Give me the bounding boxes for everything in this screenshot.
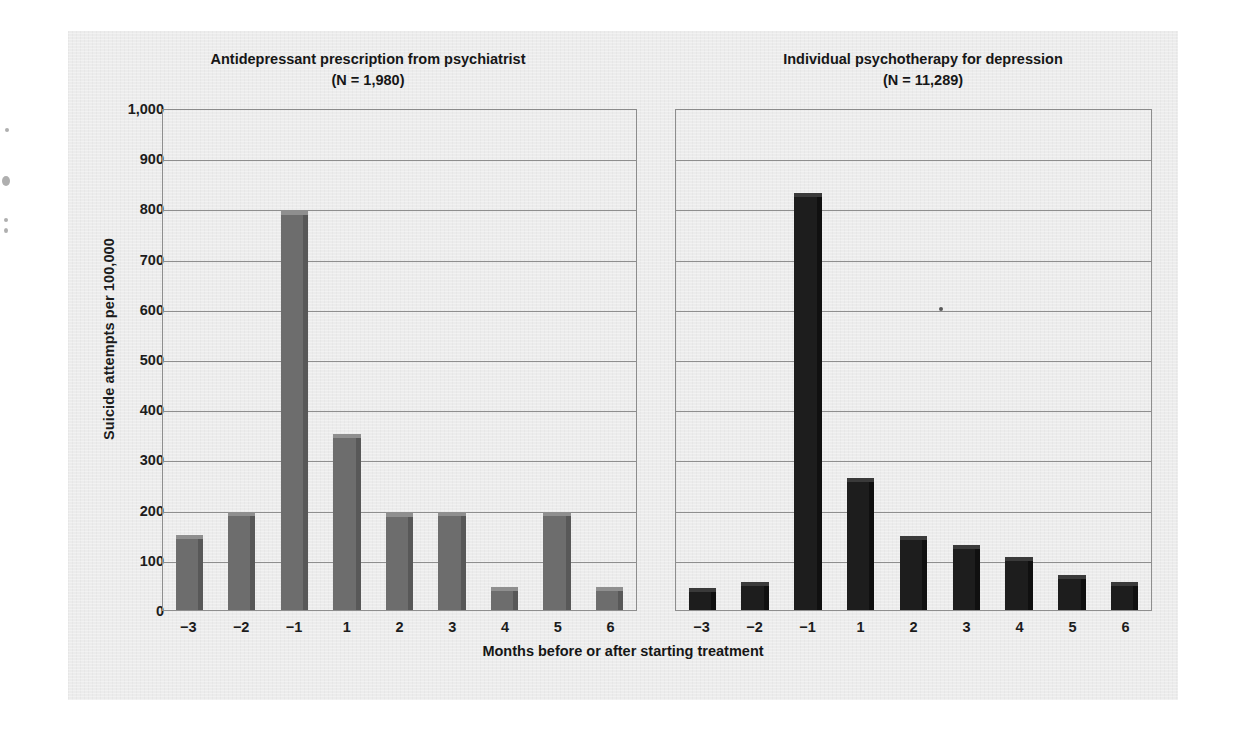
bar-top-shade bbox=[794, 193, 821, 197]
plot-area-right bbox=[675, 109, 1152, 611]
x-axis-tick-label: −2 bbox=[746, 619, 763, 635]
bar-slot bbox=[373, 110, 426, 610]
bar-series-psychotherapy bbox=[676, 110, 1151, 610]
bar-top-shade bbox=[847, 478, 874, 482]
x-axis-tick-label: 6 bbox=[1121, 619, 1129, 635]
scan-speck bbox=[2, 176, 10, 186]
bar-side-shade bbox=[250, 512, 255, 610]
bar-slot bbox=[1098, 110, 1151, 610]
panel-title-antidepressant: Antidepressant prescription from psychia… bbox=[68, 49, 668, 91]
bar-slot bbox=[268, 110, 321, 610]
bar bbox=[491, 587, 518, 610]
bar-slot bbox=[834, 110, 887, 610]
chart-panel-antidepressant: Antidepressant prescription from psychia… bbox=[68, 31, 668, 700]
x-axis-tick-label: 3 bbox=[448, 619, 456, 635]
bar-side-shade bbox=[922, 536, 927, 610]
bar-top-shade bbox=[1111, 582, 1138, 586]
x-axis-tick-label: −1 bbox=[799, 619, 816, 635]
bar-side-shade bbox=[461, 512, 466, 610]
bar bbox=[689, 588, 716, 610]
scan-speck bbox=[939, 307, 943, 311]
bar-top-shade bbox=[333, 434, 360, 438]
x-axis-tick-label: 2 bbox=[909, 619, 917, 635]
bar-side-shade bbox=[408, 513, 413, 610]
scan-speck bbox=[4, 218, 8, 222]
bar-slot bbox=[729, 110, 782, 610]
panel-title-text: Individual psychotherapy for depression bbox=[783, 51, 1063, 67]
bar-top-shade bbox=[953, 545, 980, 549]
bar bbox=[900, 536, 927, 610]
bar bbox=[1058, 575, 1085, 610]
scan-speck bbox=[5, 128, 9, 132]
bar-slot bbox=[782, 110, 835, 610]
bar bbox=[543, 512, 570, 610]
bar-slot bbox=[887, 110, 940, 610]
bar bbox=[228, 512, 255, 610]
bar bbox=[1005, 557, 1032, 610]
plot-area-left bbox=[162, 109, 637, 611]
bar-slot bbox=[478, 110, 531, 610]
x-axis-tick-label: −2 bbox=[233, 619, 250, 635]
bar-slot bbox=[1045, 110, 1098, 610]
bar-side-shade bbox=[1081, 575, 1086, 610]
bar bbox=[176, 535, 203, 610]
bar-slot bbox=[993, 110, 1046, 610]
bar bbox=[438, 512, 465, 610]
panel-sample-size: (N = 1,980) bbox=[68, 70, 668, 91]
bar-top-shade bbox=[1005, 557, 1032, 561]
x-axis-tick-label: 5 bbox=[554, 619, 562, 635]
bar-top-shade bbox=[741, 582, 768, 586]
bar bbox=[596, 587, 623, 610]
panel-sample-size: (N = 11,289) bbox=[668, 70, 1178, 91]
chart-panel-psychotherapy: Individual psychotherapy for depression … bbox=[668, 31, 1178, 700]
bar-top-shade bbox=[281, 211, 308, 215]
x-axis-tick-label: 4 bbox=[1015, 619, 1023, 635]
panel-title-text: Antidepressant prescription from psychia… bbox=[210, 51, 525, 67]
scan-speck bbox=[4, 228, 8, 233]
x-axis-tick-label: −3 bbox=[693, 619, 710, 635]
bar bbox=[741, 582, 768, 610]
bar-top-shade bbox=[438, 512, 465, 516]
bar-side-shade bbox=[975, 545, 980, 610]
bar bbox=[333, 434, 360, 610]
bar-side-shade bbox=[1028, 557, 1033, 610]
x-axis-tick-label: 6 bbox=[607, 619, 615, 635]
x-axis-tick-label: −3 bbox=[180, 619, 197, 635]
bar bbox=[794, 193, 821, 610]
bar-top-shade bbox=[543, 512, 570, 516]
bar bbox=[281, 211, 308, 610]
bar bbox=[847, 478, 874, 610]
bar-side-shade bbox=[817, 193, 822, 610]
bar-slot bbox=[676, 110, 729, 610]
x-axis-tick-label: 2 bbox=[395, 619, 403, 635]
bar-side-shade bbox=[764, 582, 769, 610]
bar-slot bbox=[531, 110, 584, 610]
x-axis-tick-label: 5 bbox=[1068, 619, 1076, 635]
bar bbox=[1111, 582, 1138, 610]
bar-top-shade bbox=[491, 587, 518, 591]
bar-slot bbox=[216, 110, 269, 610]
bar-side-shade bbox=[869, 478, 874, 610]
x-axis-tick-label: 1 bbox=[856, 619, 864, 635]
page-edge-artifacts bbox=[0, 0, 66, 735]
bar-top-shade bbox=[1058, 575, 1085, 579]
bar-side-shade bbox=[1133, 582, 1138, 610]
bar-side-shade bbox=[198, 535, 203, 610]
bar bbox=[953, 545, 980, 610]
panel-title-psychotherapy: Individual psychotherapy for depression … bbox=[668, 49, 1178, 91]
bar-slot bbox=[940, 110, 993, 610]
bar-top-shade bbox=[176, 535, 203, 539]
bar-top-shade bbox=[689, 588, 716, 592]
x-axis-tick-label: 1 bbox=[343, 619, 351, 635]
bar bbox=[386, 513, 413, 610]
bar-top-shade bbox=[596, 587, 623, 591]
bar-side-shade bbox=[566, 512, 571, 610]
bar-slot bbox=[583, 110, 636, 610]
x-axis-tick-label: 4 bbox=[501, 619, 509, 635]
x-axis-tick-label: 3 bbox=[962, 619, 970, 635]
bar-top-shade bbox=[386, 513, 413, 517]
bar-side-shade bbox=[303, 211, 308, 610]
x-axis-tick-label: −1 bbox=[286, 619, 303, 635]
bar-slot bbox=[321, 110, 374, 610]
x-axis-title: Months before or after starting treatmen… bbox=[68, 643, 1178, 659]
